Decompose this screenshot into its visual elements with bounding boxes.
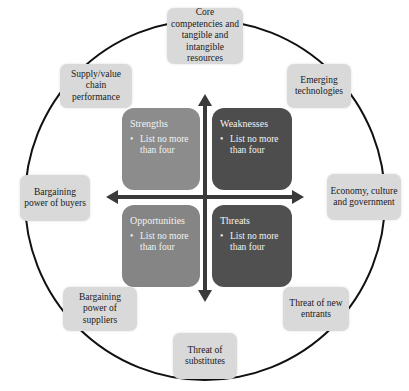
threats-title: Threats — [220, 215, 284, 226]
factor-supply-value-chain: Supply/value chain performance — [60, 64, 132, 108]
threats-item: • List no more than four — [220, 231, 284, 253]
weaknesses-item: • List no more than four — [220, 134, 284, 156]
weaknesses-box: Weaknesses • List no more than four — [212, 108, 292, 190]
strengths-item: • List no more than four — [130, 134, 192, 156]
weaknesses-title: Weaknesses — [220, 118, 284, 129]
bullet-icon: • — [220, 231, 230, 253]
threats-box: Threats • List no more than four — [212, 205, 292, 287]
strengths-title: Strengths — [130, 118, 192, 129]
factor-economy-culture-government: Economy, culture and government — [327, 174, 401, 220]
opportunities-box: Opportunities • List no more than four — [122, 205, 200, 287]
factor-emerging-technologies: Emerging technologies — [287, 64, 351, 108]
bullet-icon: • — [220, 134, 230, 156]
strengths-box: Strengths • List no more than four — [122, 108, 200, 190]
bullet-icon: • — [130, 231, 140, 253]
bullet-icon: • — [130, 134, 140, 156]
opportunities-title: Opportunities — [130, 215, 192, 226]
factor-threat-new-entrants: Threat of new entrants — [283, 287, 349, 331]
opportunities-item: • List no more than four — [130, 231, 192, 253]
factor-bargaining-power-suppliers: Bargaining power of suppliers — [63, 287, 137, 331]
factor-core-competencies: Core competencies and tangible and intan… — [167, 8, 243, 64]
factor-threat-substitutes: Threat of substitutes — [173, 333, 237, 379]
factor-bargaining-power-buyers: Bargaining power of buyers — [20, 175, 90, 221]
